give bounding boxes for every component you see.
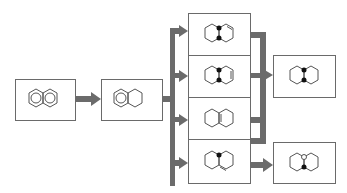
arrow-octalin4-to-trans-decalin: [250, 158, 273, 172]
node-octalin-3: [189, 98, 251, 140]
node-octalin-4: [189, 140, 251, 184]
reaction-pathway-diagram: [0, 0, 347, 193]
arrow-naphthalene-to-tetralin: [76, 92, 101, 106]
node-naphthalene: [16, 80, 76, 121]
node-cis-decalin: [274, 56, 336, 98]
node-tetralin: [102, 80, 163, 121]
node-octalin-2: [189, 56, 251, 98]
bus-octalins-to-cis-decalin: [250, 32, 273, 144]
bus-tetralin-to-octalins: [162, 25, 188, 186]
node-trans-decalin: [274, 143, 336, 184]
node-octalin-1: [189, 14, 251, 56]
